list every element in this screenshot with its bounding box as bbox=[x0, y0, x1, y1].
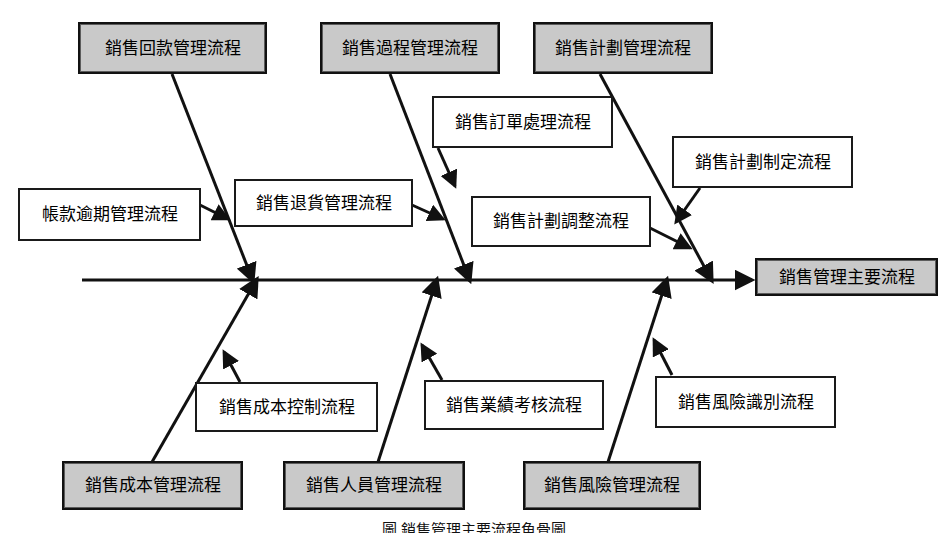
figure-caption: 圖 銷售管理主要流程魚骨圖 bbox=[0, 518, 948, 533]
bone-人員 bbox=[378, 279, 437, 462]
category-box-計劃[interactable]: 銷售計劃管理流程 bbox=[533, 22, 713, 74]
sub-label: 銷售計劃調整流程 bbox=[493, 212, 629, 231]
category-box-過程[interactable]: 銷售過程管理流程 bbox=[320, 22, 500, 74]
bone-成本 bbox=[152, 279, 257, 462]
head-label: 銷售管理主要流程 bbox=[779, 268, 915, 287]
sub-label: 銷售風險識別流程 bbox=[678, 393, 814, 412]
sub-label: 銷售成本控制流程 bbox=[219, 398, 355, 417]
sub-box-計劃制定[interactable]: 銷售計劃制定流程 bbox=[672, 136, 853, 188]
subline-風險識別 bbox=[654, 340, 672, 375]
bone-回款 bbox=[172, 74, 253, 281]
category-label: 銷售人員管理流程 bbox=[306, 476, 442, 495]
subline-訂單 bbox=[438, 148, 455, 186]
sub-label: 帳款逾期管理流程 bbox=[42, 205, 178, 224]
head-box-銷售管理主要流程[interactable]: 銷售管理主要流程 bbox=[755, 258, 938, 296]
sub-box-退貨[interactable]: 銷售退貨管理流程 bbox=[234, 179, 413, 227]
sub-label: 銷售訂單處理流程 bbox=[455, 113, 591, 132]
category-box-風險[interactable]: 銷售風險管理流程 bbox=[523, 461, 701, 510]
subline-計劃制定 bbox=[676, 188, 700, 222]
sub-box-訂單[interactable]: 銷售訂單處理流程 bbox=[432, 96, 613, 148]
subline-退貨 bbox=[412, 205, 443, 219]
sub-box-成本控制[interactable]: 銷售成本控制流程 bbox=[195, 382, 378, 432]
sub-label: 銷售業績考核流程 bbox=[446, 396, 582, 415]
fishbone-diagram: 銷售回款管理流程 銷售過程管理流程 銷售計劃管理流程 帳款逾期管理流程 銷售退貨… bbox=[0, 0, 948, 533]
category-box-成本[interactable]: 銷售成本管理流程 bbox=[62, 461, 243, 510]
sub-label: 銷售計劃制定流程 bbox=[695, 153, 831, 172]
category-box-回款[interactable]: 銷售回款管理流程 bbox=[78, 22, 267, 74]
category-box-人員[interactable]: 銷售人員管理流程 bbox=[283, 461, 465, 510]
sub-box-業績考核[interactable]: 銷售業績考核流程 bbox=[424, 380, 604, 430]
subline-業績考核 bbox=[422, 345, 442, 380]
bone-風險 bbox=[608, 279, 667, 462]
category-label: 銷售計劃管理流程 bbox=[555, 39, 691, 58]
category-label: 銷售回款管理流程 bbox=[105, 39, 241, 58]
category-label: 銷售成本管理流程 bbox=[85, 476, 221, 495]
sub-label: 銷售退貨管理流程 bbox=[256, 194, 392, 213]
category-label: 銷售過程管理流程 bbox=[342, 39, 478, 58]
sub-box-風險識別[interactable]: 銷售風險識別流程 bbox=[655, 376, 836, 428]
subline-成本控制 bbox=[224, 352, 240, 382]
sub-box-帳款逾期[interactable]: 帳款逾期管理流程 bbox=[18, 188, 201, 241]
category-label: 銷售風險管理流程 bbox=[544, 476, 680, 495]
sub-box-計劃調整[interactable]: 銷售計劃調整流程 bbox=[471, 196, 651, 247]
